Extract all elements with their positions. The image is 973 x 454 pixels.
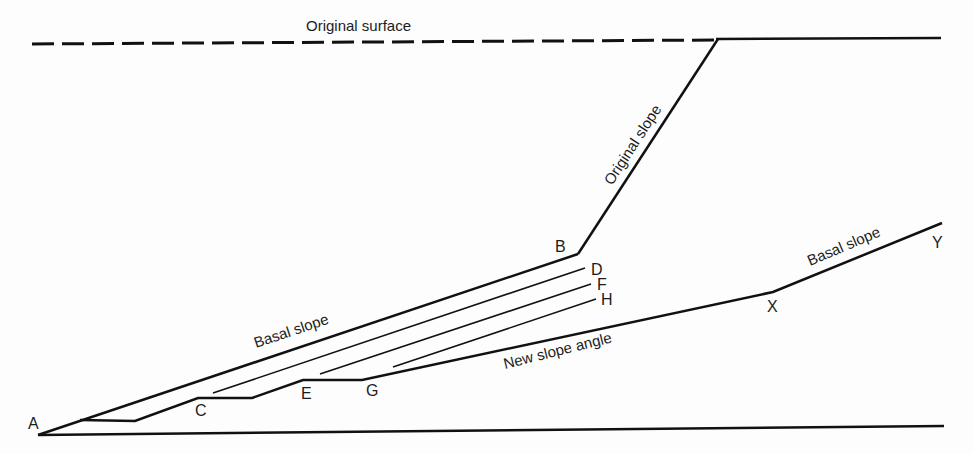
point-h-label: H (601, 291, 613, 308)
basal-slope-left-label: Basal slope (252, 310, 331, 351)
basal-slope-line (38, 254, 578, 435)
original-surface-label: Original surface (306, 17, 411, 34)
base-line (38, 426, 944, 435)
upper-surface-line (716, 38, 941, 39)
original-surface-line (32, 40, 716, 44)
slope-diagram: Original surface Original slope Basal sl… (0, 0, 973, 454)
point-x-label: X (767, 298, 778, 315)
original-slope-line (578, 39, 718, 254)
original-slope-label: Original slope (600, 101, 664, 187)
new-slope-angle-label: New slope angle (502, 329, 614, 372)
point-g-label: G (366, 382, 378, 399)
point-e-label: E (301, 385, 312, 402)
point-c-label: C (195, 402, 207, 419)
point-b-label: B (555, 238, 566, 255)
point-a-label: A (28, 415, 39, 432)
point-y-label: Y (932, 234, 943, 251)
diagram-canvas: Original surface Original slope Basal sl… (0, 0, 973, 454)
